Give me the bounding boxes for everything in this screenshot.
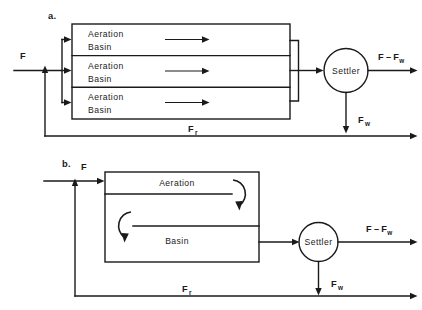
panel-a-effluent-label: F–Fw <box>378 52 405 64</box>
panel-a-flow-arrow-3 <box>165 99 210 105</box>
panel-b-turn-arrow-right <box>233 180 245 211</box>
panel-b-unit-line1: Aeration <box>159 178 195 188</box>
panel-b-recycle-arrowhead <box>72 179 78 187</box>
panel-a-basin-3-line2: Basin <box>88 105 112 115</box>
panel-b-settler-inlet <box>259 239 300 245</box>
panel-a-recycle-label: Fr <box>188 124 198 136</box>
panel-b-unit-line2: Basin <box>165 236 189 246</box>
panel-b-turn-arrow-left <box>119 212 131 243</box>
panel-b-recycle-label: Fr <box>182 284 192 296</box>
panel-b-effluent-label: F–Fw <box>366 224 393 236</box>
panel-a-inlet-branch-3 <box>62 99 72 105</box>
panel-a-recycle-arrowhead <box>42 66 48 74</box>
panel-a-label: a. <box>48 10 56 21</box>
panel-a-basin-2-line1: Aeration <box>88 61 124 71</box>
panel-b-settler-label: Settler <box>305 237 333 247</box>
panel-a-flow-arrow-1 <box>165 36 210 42</box>
panel-b-recycle-end-arrowhead <box>410 293 418 299</box>
panel-a-inlet-branch-1 <box>62 36 72 42</box>
panel-a-settler-inlet <box>290 67 324 73</box>
panel-a-basin-1-line1: Aeration <box>88 29 124 39</box>
panel-b-waste-label: Fw <box>331 279 343 291</box>
panel-b-label: b. <box>62 158 71 169</box>
panel-a-waste-line <box>343 93 349 134</box>
figure-root: a. Aeration Basin Aeration Basin Aeratio… <box>0 0 422 310</box>
panel-b-effluent-line <box>338 239 418 245</box>
panel-a-basin-2-line2: Basin <box>88 74 112 84</box>
panel-a-feed-label: F <box>20 51 26 61</box>
panel-a-effluent-line <box>368 67 418 73</box>
panel-a-basin-1-line2: Basin <box>88 42 112 52</box>
panel-b-feed-arrowhead <box>97 178 105 184</box>
panel-a-recycle-end-arrowhead <box>410 133 418 139</box>
panel-b-waste-line <box>315 262 321 296</box>
panel-b: b. Aeration Basin F <box>44 158 418 299</box>
panel-a-flow-arrow-2 <box>165 68 210 74</box>
panel-a: a. Aeration Basin Aeration Basin Aeratio… <box>14 10 418 139</box>
process-flow-diagram: a. Aeration Basin Aeration Basin Aeratio… <box>0 0 422 310</box>
panel-a-inlet-branch-2 <box>62 67 72 73</box>
panel-a-basin-3-line1: Aeration <box>88 92 124 102</box>
panel-a-settler-label: Settler <box>332 66 360 76</box>
panel-b-feed-label: F <box>81 162 87 172</box>
panel-a-waste-label: Fw <box>358 115 370 127</box>
